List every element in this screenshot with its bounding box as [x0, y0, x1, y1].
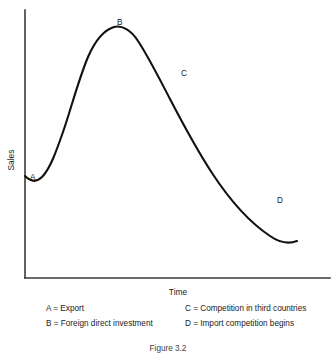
chart-plot-area: A B C D Sales Time [0, 0, 336, 300]
legend-entry-d: D = Import competition begins [185, 318, 294, 329]
legend-row: A = Export C = Competition in third coun… [0, 303, 336, 318]
legend-entry-b: B = Foreign direct investment [46, 318, 153, 329]
y-axis-title: Sales [6, 150, 16, 171]
curve-point-label-d: D [277, 196, 283, 205]
curve-point-label-a: A [30, 173, 36, 182]
sales-curve [25, 27, 297, 243]
legend-entry-c: C = Competition in third countries [185, 303, 306, 314]
legend-entry-a: A = Export [46, 303, 84, 314]
curve-point-label-b: B [117, 18, 123, 27]
curve-point-label-c: C [181, 69, 187, 78]
figure-container: A B C D Sales Time A = Export C = Compet… [0, 0, 336, 355]
x-axis-title: Time [169, 287, 188, 297]
chart-legend: A = Export C = Competition in third coun… [0, 303, 336, 333]
legend-row: B = Foreign direct investment D = Import… [0, 318, 336, 333]
figure-caption: Figure 3.2 [0, 344, 336, 355]
